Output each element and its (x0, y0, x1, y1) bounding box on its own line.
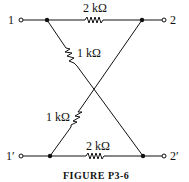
circuit-diagram (0, 0, 189, 182)
resistor-diag-lower-label: 1 kΩ (46, 111, 70, 123)
resistor-diag-upper-label: 1 kΩ (77, 47, 101, 59)
terminal-2-label: 2 (170, 14, 176, 26)
terminal-1prime-label: 1′ (6, 150, 15, 162)
resistor-bottom-label: 2 kΩ (86, 140, 110, 152)
resistor-top-label: 2 kΩ (83, 2, 107, 14)
terminal-1-label: 1 (8, 14, 14, 26)
terminal-2prime-label: 2′ (170, 150, 179, 162)
figure-caption: FIGURE P3-6 (63, 170, 129, 181)
